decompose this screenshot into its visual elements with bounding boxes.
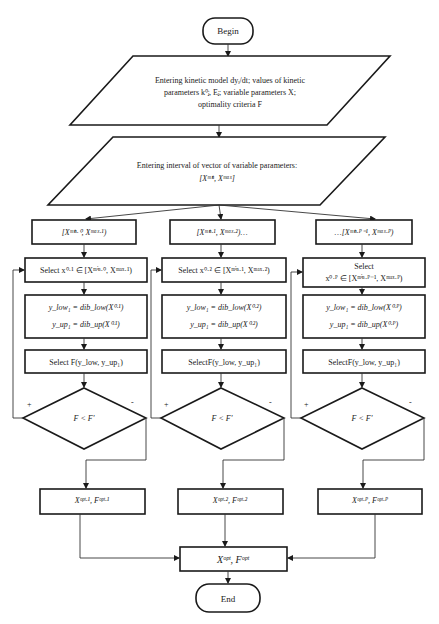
decision-2-no: - (269, 398, 272, 407)
decision-1-no: - (131, 398, 134, 407)
input2-line1: Entering interval of vector of variable … (137, 161, 297, 170)
arrow-split-2 (219, 205, 221, 219)
select-f-1-label: Select F(y_low, y_up₁) (49, 358, 123, 367)
final-result-label: Xᵒᵖᵗ, Fᵒᵖᵗ (216, 554, 250, 565)
result-3-label: Xᵒᵖᵗ·ᴾ, Fᵒᵖᵗ·ᴾ (351, 496, 389, 505)
select-f-3-label: SelectF(y_low, y_up₁) (328, 358, 400, 367)
arrow-split-1 (86, 205, 219, 219)
decision-3-label: F < F' (351, 414, 373, 423)
loop-back-3 (291, 272, 302, 418)
decision-3-no: - (409, 398, 412, 407)
input-kinetic-model: Entering kinetic model dyᵢ/dt; values of… (70, 56, 390, 125)
calc-up-2: y_up₁ = dib_up(X⁰·²) (189, 320, 258, 329)
input-interval: Entering interval of vector of variable … (48, 137, 385, 205)
calc-low-2: y_low₁ = dib_low(X⁰·²) (186, 303, 262, 312)
select-x-2-label: Select x⁰·² ∈ [Xᵐⁱⁿ·¹, Xᵐᵃˣ·²) (178, 266, 270, 275)
input2-line2: [Xᵐⁱⁿ, Xᵐᵃˣ] (199, 174, 235, 183)
calc-low-1: y_low₁ = dib_low(X⁰·¹) (48, 303, 124, 312)
interval-2-label: [Xᵐⁱⁿ·¹, Xᵐᵃˣ·²)… (196, 228, 247, 237)
begin-terminal: Begin (203, 18, 253, 44)
calc-up-3: y_up₁ = dib_up(X⁰·ᴾ) (329, 320, 399, 329)
arrow-result-3-to-final (288, 514, 375, 558)
final-result: Xᵒᵖᵗ, Fᵒᵖᵗ (180, 547, 287, 571)
interval-3-label: …[Xᵐⁱⁿ·ᴾ⁻¹, Xᵐᵃˣ·ᴾ) (335, 228, 394, 237)
select-x-3-line1: Select (354, 262, 374, 271)
decision-1-label: F < F' (73, 414, 95, 423)
result-1-label: Xᵒᵖᵗ·¹, Fᵒᵖᵗ·¹ (74, 496, 110, 505)
calc-box-1 (25, 295, 147, 338)
decision-3-yes: + (304, 400, 309, 409)
calc-up-1: y_up₁ = dib_up(X⁰·¹) (51, 320, 120, 329)
branch-3: …[Xᵐⁱⁿ·ᴾ⁻¹, Xᵐᵃˣ·ᴾ) Select x⁰·ᴾ ∈ [Xᵐⁱⁿ·… (288, 220, 425, 558)
loop-back-2 (151, 270, 161, 418)
input1-line1: Entering kinetic model dyᵢ/dt; values of… (155, 76, 306, 85)
result-2-label: Xᵒᵖᵗ·², Fᵒᵖᵗ·² (212, 496, 248, 505)
calc-box-3 (303, 295, 425, 338)
calc-low-3: y_low₁ = dib_low(X⁰·ᴾ) (325, 303, 402, 312)
select-f-2-label: SelectF(y_low, y_up₁) (188, 358, 260, 367)
arrow-split-3 (219, 205, 375, 219)
arrow-result-1-to-final (80, 514, 179, 558)
branch-1: [Xᵐⁱⁿ·⁰, Xᵐᵃˣ·¹) Select x⁰·¹ ∈ [Xᵐⁱⁿ·⁰, … (13, 220, 179, 558)
branch-2: [Xᵐⁱⁿ·¹, Xᵐᵃˣ·²)… Select x⁰·² ∈ [Xᵐⁱⁿ·¹,… (151, 220, 286, 546)
input1-line2: parameters k⁰ⱼ, Eⱼ; variable parameters … (164, 88, 296, 97)
interval-1-label: [Xᵐⁱⁿ·⁰, Xᵐᵃˣ·¹) (62, 228, 107, 237)
loop-back-1 (13, 270, 24, 418)
select-x-1-label: Select x⁰·¹ ∈ [Xᵐⁱⁿ·⁰, Xᵐᵃˣ·¹) (40, 266, 132, 275)
calc-box-2 (162, 295, 286, 338)
decision-1-yes: + (27, 400, 32, 409)
end-terminal: End (196, 584, 260, 612)
end-label: End (221, 594, 236, 604)
decision-2-label: F < F' (211, 414, 233, 423)
decision-2-yes: + (164, 400, 169, 409)
select-x-3-line2: x⁰·ᴾ ∈ [Xᵐⁱⁿ·ᴾ⁻¹, Xᵐᵃˣ·ᴾ) (325, 274, 402, 283)
begin-label: Begin (217, 26, 239, 36)
flowchart-canvas: Begin Entering kinetic model dyᵢ/dt; val… (0, 0, 439, 624)
input1-line3: optimality criteria F (198, 100, 263, 109)
